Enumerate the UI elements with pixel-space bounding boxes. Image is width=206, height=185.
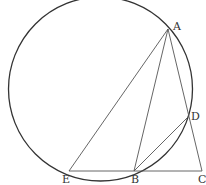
label-d: D [191, 110, 200, 123]
segments [69, 29, 202, 171]
geometry-diagram: A B C D E [0, 0, 206, 185]
segment-ae [69, 29, 168, 171]
segment-ab [134, 29, 168, 171]
label-e: E [62, 173, 70, 185]
label-b: B [131, 173, 139, 185]
circle [9, 0, 193, 181]
label-c: C [198, 173, 206, 185]
segment-ac [168, 29, 202, 171]
point-labels: A B C D E [62, 20, 206, 185]
segment-bd [134, 116, 189, 171]
label-a: A [172, 20, 182, 33]
